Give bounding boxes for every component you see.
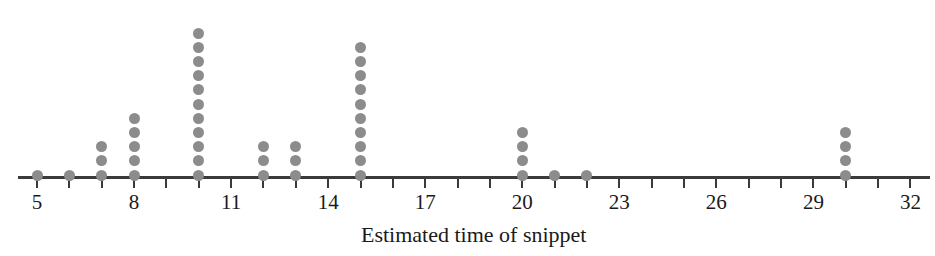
x-axis-tick-label: 32	[900, 192, 921, 213]
x-axis-tick-label: 8	[129, 192, 140, 213]
x-axis-tick-label: 5	[32, 192, 43, 213]
data-dot	[290, 141, 301, 152]
x-axis-tick	[683, 179, 685, 188]
data-dot	[193, 113, 204, 124]
data-dot	[193, 141, 204, 152]
data-dot	[64, 170, 75, 181]
data-dot	[517, 155, 528, 166]
x-axis-tick	[748, 179, 750, 188]
data-dot	[355, 70, 366, 81]
data-dot	[355, 56, 366, 67]
data-dot	[32, 170, 43, 181]
data-dot	[517, 170, 528, 181]
x-axis-tick	[877, 179, 879, 188]
data-dot	[193, 155, 204, 166]
x-axis-tick-label: 11	[221, 192, 241, 213]
x-axis-tick	[812, 179, 814, 188]
data-dot	[549, 170, 560, 181]
x-axis-tick	[165, 179, 167, 188]
x-axis-tick-label: 29	[803, 192, 824, 213]
data-dot	[355, 127, 366, 138]
data-dot	[129, 170, 140, 181]
x-axis-line	[18, 176, 930, 179]
data-dot	[355, 155, 366, 166]
data-dot	[96, 141, 107, 152]
data-dot	[129, 127, 140, 138]
data-dot	[193, 84, 204, 95]
data-dot	[840, 141, 851, 152]
x-axis-tick-label: 20	[512, 192, 533, 213]
data-dot	[193, 127, 204, 138]
data-dot	[355, 113, 366, 124]
data-dot	[290, 170, 301, 181]
data-dot	[355, 84, 366, 95]
x-axis-tick	[424, 179, 426, 188]
data-dot	[355, 99, 366, 110]
x-axis-title: Estimated time of snippet	[361, 224, 586, 246]
data-dot	[129, 141, 140, 152]
x-axis-tick-label: 26	[706, 192, 727, 213]
x-axis-tick	[618, 179, 620, 188]
data-dot	[258, 170, 269, 181]
data-dot	[290, 155, 301, 166]
x-axis-tick	[715, 179, 717, 188]
data-dot	[193, 42, 204, 53]
data-dot	[96, 170, 107, 181]
data-dot	[840, 155, 851, 166]
data-dot	[193, 56, 204, 67]
data-dot	[129, 113, 140, 124]
x-axis-tick-label: 23	[609, 192, 630, 213]
dot-plot-figure: 581114172023262932Estimated time of snip…	[0, 0, 935, 256]
data-dot	[517, 141, 528, 152]
x-axis-tick-label: 14	[318, 192, 339, 213]
data-dot	[517, 127, 528, 138]
x-axis-tick	[327, 179, 329, 188]
x-axis-tick	[457, 179, 459, 188]
x-axis-tick	[489, 179, 491, 188]
data-dot	[840, 170, 851, 181]
x-axis-tick	[780, 179, 782, 188]
x-axis-tick	[230, 179, 232, 188]
data-dot	[193, 28, 204, 39]
data-dot	[193, 170, 204, 181]
data-dot	[355, 42, 366, 53]
data-dot	[193, 99, 204, 110]
x-axis-tick	[651, 179, 653, 188]
data-dot	[355, 141, 366, 152]
data-dot	[193, 70, 204, 81]
x-axis-tick-label: 17	[415, 192, 436, 213]
x-axis-tick	[392, 179, 394, 188]
data-dot	[581, 170, 592, 181]
data-dot	[96, 155, 107, 166]
data-dot	[129, 155, 140, 166]
data-dot	[258, 155, 269, 166]
x-axis-tick	[909, 179, 911, 188]
data-dot	[355, 170, 366, 181]
data-dot	[258, 141, 269, 152]
data-dot	[840, 127, 851, 138]
